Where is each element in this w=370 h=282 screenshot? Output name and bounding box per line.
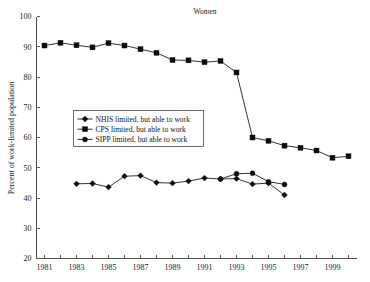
x-tick-label: 1987 (133, 263, 149, 272)
data-point-marker (154, 180, 160, 186)
data-point-marker (282, 192, 288, 198)
legend-label: SIPP limited, but able to work (96, 135, 188, 144)
x-tick-label: 1981 (37, 263, 53, 272)
y-tick-label: 50 (24, 164, 32, 173)
data-point-marker (83, 137, 88, 142)
x-tick-label: 1983 (69, 263, 85, 272)
x-tick-label: 1991 (197, 263, 213, 272)
data-point-marker (106, 41, 111, 46)
data-point-marker (138, 47, 143, 52)
x-axis-tick-labels: 1981198319851987198919911993199519971999 (37, 263, 341, 272)
data-point-marker (106, 184, 112, 190)
data-point-marker (202, 175, 208, 181)
chart-title: Women (193, 7, 216, 16)
data-point-marker (154, 50, 159, 55)
y-tick-label: 80 (24, 73, 32, 82)
x-tick-label: 1999 (325, 263, 341, 272)
data-point-marker (298, 145, 303, 150)
y-tick-label: 40 (24, 194, 32, 203)
data-point-marker (138, 173, 144, 179)
x-tick-label: 1995 (261, 263, 277, 272)
data-point-marker (266, 179, 271, 184)
data-point-marker (122, 173, 128, 179)
series-nhis (74, 173, 288, 198)
y-axis-title: Percent of work-limited population (7, 82, 16, 195)
legend-label: NHIS limited, but able to work (96, 115, 191, 124)
data-point-marker (122, 43, 127, 48)
legend-label: CPS limited, but able to work (96, 125, 186, 134)
data-point-marker (74, 181, 80, 187)
chart-container: 2030405060708090100 19811983198519871989… (0, 0, 370, 282)
data-point-marker (170, 58, 175, 63)
data-point-marker (314, 148, 319, 153)
line-chart: 2030405060708090100 19811983198519871989… (0, 0, 370, 282)
data-point-marker (250, 181, 256, 187)
data-point-marker (346, 154, 351, 159)
data-point-marker (282, 182, 287, 187)
data-point-marker (83, 127, 88, 132)
x-tick-label: 1989 (165, 263, 181, 272)
y-tick-label: 20 (24, 254, 32, 263)
data-point-marker (58, 40, 63, 45)
data-point-marker (90, 181, 96, 187)
y-axis-tick-labels: 2030405060708090100 (20, 12, 32, 263)
data-point-marker (234, 171, 239, 176)
y-tick-label: 100 (20, 12, 32, 21)
data-point-marker (90, 45, 95, 50)
data-point-marker (330, 155, 335, 160)
data-point-marker (250, 135, 255, 140)
data-point-marker (218, 58, 223, 63)
data-point-marker (170, 180, 176, 186)
data-point-marker (282, 143, 287, 148)
data-point-marker (74, 43, 79, 48)
data-point-marker (250, 171, 255, 176)
data-point-marker (42, 43, 47, 48)
x-tick-label: 1985 (101, 263, 117, 272)
data-point-marker (234, 176, 240, 182)
data-point-marker (202, 60, 207, 65)
y-tick-label: 60 (24, 133, 32, 142)
data-point-marker (186, 178, 192, 184)
x-tick-label: 1993 (229, 263, 245, 272)
data-point-marker (266, 138, 271, 143)
y-tick-label: 30 (24, 224, 32, 233)
y-tick-label: 70 (24, 103, 32, 112)
data-point-marker (186, 58, 191, 63)
chart-legend[interactable]: NHIS limited, but able to workCPS limite… (74, 111, 204, 147)
data-point-marker (234, 70, 239, 75)
x-tick-label: 1997 (293, 263, 309, 272)
data-point-marker (218, 176, 223, 181)
y-tick-label: 90 (24, 43, 32, 52)
